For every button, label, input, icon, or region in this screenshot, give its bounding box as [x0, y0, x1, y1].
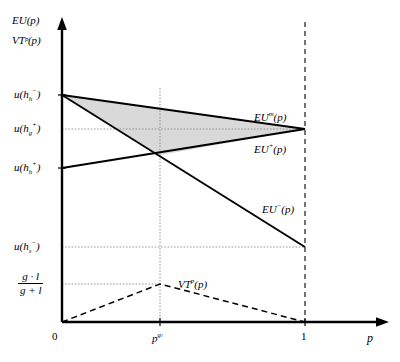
- y-axis-label-vt: VTᵖ(p): [12, 35, 41, 46]
- y-axis-arrowhead: [57, 17, 67, 30]
- y-tick-label-u-h-g-plus: u(hg+): [14, 122, 40, 137]
- x-axis-label-p: p: [367, 332, 373, 344]
- y-tick-label-gl-fraction: g · l g + l: [18, 270, 43, 296]
- curve-label-eu-m: EUm(p): [254, 111, 286, 123]
- x-tick-label-zero: 0: [52, 331, 58, 342]
- curve-label-eu-minus: EU−(p): [262, 203, 294, 215]
- x-tick-label-p-gl: pgₗ: [152, 332, 162, 344]
- y-axis-label-eu: EU(p): [12, 15, 40, 26]
- x-tick-label-one: 1: [301, 331, 307, 342]
- y-tick-label-u-h-s-minus: u(hs−): [14, 240, 40, 255]
- expected-utility-diagram: [0, 0, 400, 362]
- y-tick-label-u-h-h-minus: u(hh−): [14, 88, 40, 103]
- curve-label-eu-plus: EU+(p): [254, 143, 286, 155]
- y-tick-label-u-h-h-plus: u(hh+): [14, 161, 40, 176]
- x-axis-arrowhead: [376, 317, 389, 327]
- curve-label-vt-p: VTp(p): [178, 278, 207, 290]
